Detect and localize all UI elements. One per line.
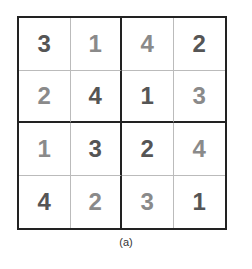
sudoku-cell[interactable]: 3 xyxy=(122,176,174,229)
sudoku-cell[interactable]: 2 xyxy=(174,18,226,71)
figure-caption: (a) xyxy=(0,236,252,248)
sudoku-grid: 3142241313244231 xyxy=(17,16,227,230)
sudoku-cell[interactable]: 4 xyxy=(19,176,71,229)
sudoku-cell[interactable]: 1 xyxy=(71,18,123,71)
sudoku-cell[interactable]: 3 xyxy=(71,123,123,176)
sudoku-cell[interactable]: 1 xyxy=(122,71,174,124)
sudoku-cell[interactable]: 1 xyxy=(174,176,226,229)
sudoku-cell[interactable]: 4 xyxy=(174,123,226,176)
sudoku-cell[interactable]: 3 xyxy=(19,18,71,71)
sudoku-cell[interactable]: 4 xyxy=(122,18,174,71)
sudoku-cell[interactable]: 3 xyxy=(174,71,226,124)
sudoku-cell[interactable]: 2 xyxy=(71,176,123,229)
sudoku-cell[interactable]: 1 xyxy=(19,123,71,176)
sudoku-cell[interactable]: 2 xyxy=(122,123,174,176)
sudoku-cell[interactable]: 4 xyxy=(71,71,123,124)
sudoku-cell[interactable]: 2 xyxy=(19,71,71,124)
